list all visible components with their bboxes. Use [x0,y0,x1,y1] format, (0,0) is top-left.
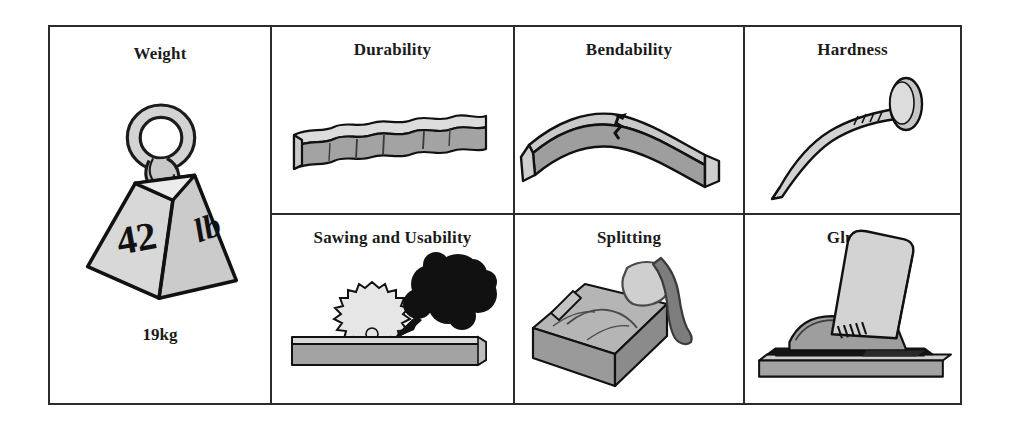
panel-durability: Durability [272,27,515,215]
panel-bendability: Bendability [515,27,745,215]
wood-properties-figure: Weight 42 [48,25,962,405]
panel-weight: Weight 42 [50,27,272,403]
smoke-plume [392,252,497,340]
panel-hardness: Hardness [745,27,960,215]
weight-caption-kg: 19kg [50,325,270,345]
panel-splitting: Splitting [515,215,745,403]
glued-boards-icon [745,215,960,403]
bent-beam-icon [515,27,743,213]
weathered-plank-icon [272,27,513,213]
panel-grid: Weight 42 [50,27,960,403]
circular-saw-blade-smoke-icon [272,215,513,403]
axe-and-log-icon [515,215,743,403]
weight-kettlebell-icon: 42 lb [50,27,270,403]
panel-gluing: Gluing [745,215,960,403]
weight-number-label: 42 [113,213,160,263]
bent-nail-icon [745,27,960,213]
panel-sawing-and-usability: Sawing and Usability [272,215,515,403]
